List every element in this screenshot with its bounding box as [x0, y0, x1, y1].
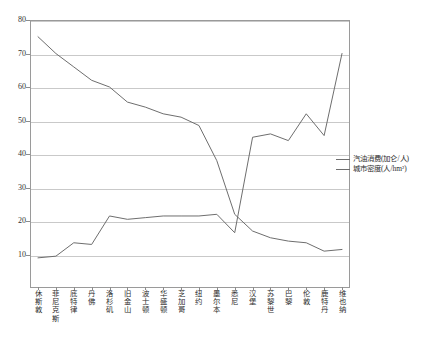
legend-swatch-density	[336, 169, 350, 170]
x-tick-label: 维也纳	[337, 290, 348, 315]
x-tick-label: 华盛顿	[158, 290, 169, 315]
x-tick-label: 洛杉矶	[104, 290, 115, 315]
legend-item-gasoline: 汽油消费(加仑/人)	[336, 155, 432, 164]
legend-label-gasoline: 汽油消费(加仑/人)	[353, 154, 409, 163]
x-tick-label: 底特律	[68, 290, 79, 315]
x-tick-label: 菲尼克斯	[50, 290, 61, 323]
x-tick-label: 芝加哥	[176, 290, 187, 315]
x-tick-label: 苏黎世	[265, 290, 276, 315]
legend-label-density: 城市密度(人/hm²)	[353, 164, 407, 173]
x-axis: 休斯敦菲尼克斯底特律丹佛洛杉矶旧金山波士顿华盛顿芝加哥纽约墨尔本悉尼汉堡苏黎世巴…	[30, 290, 350, 341]
chart-legend: 汽油消费(加仑/人) 城市密度(人/hm²)	[336, 155, 432, 175]
series-line-gasoline	[38, 37, 342, 251]
x-tick-label: 巴黎	[283, 290, 294, 306]
legend-item-density: 城市密度(人/hm²)	[336, 165, 432, 174]
x-tick-label: 汉堡	[247, 290, 258, 306]
x-tick-label: 旧金山	[122, 290, 133, 315]
x-tick-label: 丹佛	[86, 290, 97, 306]
x-tick-label: 墨尔本	[211, 290, 222, 315]
x-tick-label: 波士顿	[140, 290, 151, 315]
series-line-density	[38, 54, 342, 258]
line-chart: 1020304050607080 休斯敦菲尼克斯底特律丹佛洛杉矶旧金山波士顿华盛…	[0, 0, 433, 341]
x-tick-label: 休斯敦	[33, 290, 44, 315]
x-tick-label: 伦敦	[301, 290, 312, 306]
x-tick-label: 鹿特丹	[319, 290, 330, 315]
x-tick-label: 纽约	[193, 290, 204, 306]
x-tick-label: 悉尼	[229, 290, 240, 306]
legend-swatch-gasoline	[336, 159, 350, 160]
